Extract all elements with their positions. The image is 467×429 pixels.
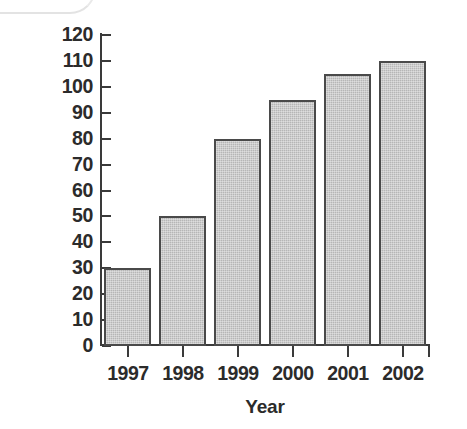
x-tick-label: 1998: [162, 362, 203, 385]
bar-chart-figure: 0102030405060708090100110120 19971998199…: [0, 0, 467, 429]
bar-1998: [159, 216, 206, 346]
x-tick-label: 2001: [327, 362, 368, 385]
plot-area: 0102030405060708090100110120 19971998199…: [100, 33, 430, 346]
y-tick-90: 90: [102, 112, 111, 114]
y-tick-60: 60: [102, 190, 111, 192]
y-tick-label: 70: [72, 153, 93, 176]
x-tick-1998: [182, 346, 184, 357]
x-tick-2001: [347, 346, 349, 357]
x-tick-label: 1997: [107, 362, 148, 385]
bar-2000: [269, 100, 316, 346]
bar-1997: [104, 268, 151, 346]
y-tick-label: 30: [72, 256, 93, 279]
x-tick-1999: [237, 346, 239, 357]
x-tick-2002: [402, 346, 404, 357]
y-tick-label: 10: [72, 308, 93, 331]
y-tick-110: 110: [102, 60, 111, 62]
y-tick-80: 80: [102, 138, 111, 140]
x-tick-2000: [292, 346, 294, 357]
x-tick-label: 1999: [217, 362, 258, 385]
scan-edge-artifact: [0, 0, 96, 14]
y-tick-40: 40: [102, 241, 111, 243]
y-tick-70: 70: [102, 164, 111, 166]
y-tick-label: 60: [72, 179, 93, 202]
x-axis-title: Year: [100, 396, 430, 418]
bar-1999: [214, 139, 261, 346]
y-tick-label: 50: [72, 204, 93, 227]
bar-2001: [324, 74, 371, 346]
x-tick-1997: [127, 346, 129, 357]
y-tick-label: 120: [62, 23, 93, 46]
y-tick-100: 100: [102, 86, 111, 88]
bar-2002: [379, 61, 426, 346]
y-tick-50: 50: [102, 215, 111, 217]
y-tick-label: 20: [72, 282, 93, 305]
y-tick-label: 80: [72, 127, 93, 150]
x-tick-end: [428, 346, 430, 357]
x-tick-label: 2002: [382, 362, 423, 385]
y-tick-label: 90: [72, 101, 93, 124]
x-tick-label: 2000: [272, 362, 313, 385]
y-tick-label: 0: [83, 334, 93, 357]
y-tick-label: 40: [72, 230, 93, 253]
y-tick-label: 110: [63, 49, 93, 72]
y-tick-120: 120: [102, 34, 111, 36]
y-tick-label: 100: [62, 75, 93, 98]
